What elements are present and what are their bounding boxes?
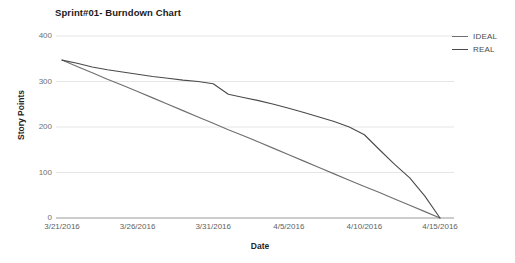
series-line-ideal bbox=[62, 60, 440, 218]
y-axis-title: Story Points bbox=[16, 85, 26, 145]
legend-item-label: IDEAL bbox=[473, 32, 497, 41]
legend-item-real[interactable]: REAL bbox=[452, 45, 495, 54]
x-tick-label: 4/10/2016 bbox=[329, 222, 399, 231]
x-tick-label: 3/31/2016 bbox=[178, 222, 248, 231]
x-tick-label: 4/15/2016 bbox=[405, 222, 475, 231]
x-tick-label: 3/21/2016 bbox=[27, 222, 97, 231]
y-tick-label: 400 bbox=[18, 31, 52, 40]
legend-line-swatch-icon bbox=[452, 49, 468, 50]
burndown-chart-page: Sprint#01- Burndown Chart 0100200300400 … bbox=[0, 0, 515, 263]
legend-item-ideal[interactable]: IDEAL bbox=[452, 32, 497, 41]
x-tick-label: 4/5/2016 bbox=[254, 222, 324, 231]
legend-item-label: REAL bbox=[473, 45, 495, 54]
x-tick-label: 3/26/2016 bbox=[103, 222, 173, 231]
series-lines bbox=[62, 60, 440, 218]
gridlines bbox=[56, 36, 454, 218]
y-tick-label: 100 bbox=[18, 168, 52, 177]
legend-line-swatch-icon bbox=[452, 36, 468, 37]
x-axis-title: Date bbox=[205, 241, 315, 251]
y-tick-label: 0 bbox=[18, 213, 52, 222]
